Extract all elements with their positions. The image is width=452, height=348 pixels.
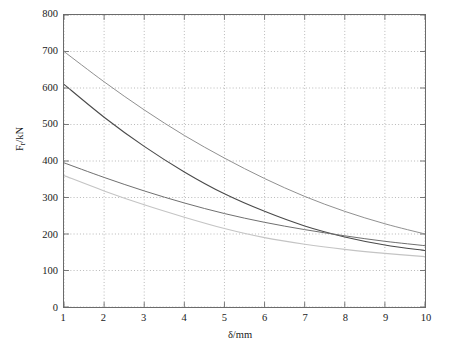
figure-chart-force-vs-deflection: Fr/kN 0100200300400500600700800 12345678… [0,0,452,348]
y-axis-tick-label-group: 0100200300400500600700800 [18,0,58,348]
y-axis-tick-label: 300 [42,193,58,204]
y-axis-tick-label: 0 [53,303,58,314]
data-curves [64,15,425,307]
x-axis-tick-label: 4 [181,313,186,324]
x-axis-tick-label: 8 [343,313,348,324]
x-axis-tick-label: 9 [383,313,388,324]
y-axis-tick-label: 200 [42,230,58,241]
y-axis-tick-label: 700 [42,46,58,57]
x-axis-tick-label: 5 [222,313,227,324]
x-axis-tick-label: 6 [262,313,267,324]
y-axis-tick-label: 500 [42,119,58,130]
plot-area [63,14,426,308]
x-axis-tick-label: 3 [141,313,146,324]
x-axis-tick-label: 7 [302,313,307,324]
y-axis-tick-label: 800 [42,9,58,20]
y-axis-tick-label: 100 [42,266,58,277]
x-axis-title: δ/mm [0,329,452,340]
y-axis-tick-label: 400 [42,156,58,167]
x-axis-title-text: δ/mm [228,329,252,340]
x-axis-tick-label: 1 [60,313,65,324]
x-axis-tick-label: 2 [101,313,106,324]
x-axis-tick-label: 10 [421,313,432,324]
y-axis-tick-label: 600 [42,83,58,94]
x-axis-tick-label-group: 12345678910 [0,313,452,329]
